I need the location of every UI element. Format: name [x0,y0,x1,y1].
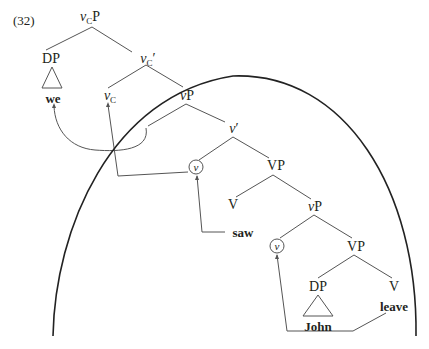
arrowhead-v-upper [195,175,199,180]
branch-VP-vP [273,175,311,199]
arrowhead-v-lower [275,254,279,259]
node-vp-upper: vP [180,89,194,103]
node-vcp: vCP [80,10,100,26]
branch-VP-V-lower [354,255,392,278]
node-v-bar: v′ [229,122,238,136]
branch-vbar-v [199,137,233,160]
node-dp-lower: DP [309,280,327,294]
branch-vcp-vcbar [92,27,132,52]
node-v-circled-upper: v [194,162,199,173]
leaf-leave: leave [380,300,408,313]
triangle-john [303,295,333,316]
node-V-upper: V [228,198,238,212]
node-vc: vC [104,89,116,105]
branch-vcp-dp [46,27,92,50]
branch-vP-v [280,215,314,238]
tree-lines [0,0,429,349]
triangle-we [42,67,62,88]
node-v-circled-lower: v [275,241,280,252]
leaf-we: we [45,92,60,105]
branch-VP-V [236,175,273,197]
leaf-saw: saw [233,226,254,239]
node-vc-bar: vC′ [140,52,155,68]
branch-vbar-VP [233,137,269,158]
branch-VP-DP [318,255,354,278]
node-dp-top: DP [42,52,60,66]
node-VP-upper: VP [267,159,285,173]
node-VP-lower: VP [347,240,365,254]
leaf-john: John [304,320,331,333]
arrow-saw-to-v [197,176,225,232]
branch-vP-VP [314,215,352,238]
node-V-lower: V [389,280,399,294]
syntax-tree-diagram: (32) vCP DP we vC′ vC vP v′ v VP V saw v… [0,0,429,349]
node-vp-lower: vP [308,200,322,214]
branch-vp-spec [148,104,186,126]
branch-vcbar-vp [146,65,183,87]
branch-vcbar-vc [108,65,146,88]
example-number: (32) [13,14,35,27]
branch-vp-vbar [186,104,225,122]
